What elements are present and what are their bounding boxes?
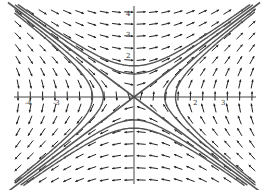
field-arrow	[161, 154, 170, 157]
field-arrow	[65, 104, 68, 113]
field-arrow	[88, 34, 96, 38]
field-arrow	[149, 10, 158, 12]
field-arrow	[16, 128, 20, 136]
field-arrow	[149, 58, 158, 61]
field-arrow	[211, 22, 219, 27]
field-arrow	[137, 106, 145, 109]
field-arrow	[41, 116, 45, 124]
field-arrow	[78, 80, 82, 88]
field-arrow	[63, 22, 71, 26]
field-arrow	[66, 80, 69, 89]
field-arrow	[112, 35, 121, 37]
field-arrow	[249, 44, 254, 51]
field-arrow	[124, 167, 133, 169]
field-arrow	[177, 92, 179, 101]
field-arrow	[211, 10, 219, 14]
field-arrow	[39, 10, 47, 15]
field-arrow	[186, 154, 194, 158]
field-arrow	[186, 166, 194, 170]
field-arrow	[112, 59, 121, 62]
phase-portrait-plot: -4-323432	[0, 0, 269, 190]
x-tick-label: 3	[221, 99, 225, 107]
y-tick-label: 4	[126, 10, 131, 18]
field-arrow	[137, 11, 146, 13]
field-arrow	[124, 23, 133, 25]
field-arrow	[238, 116, 242, 124]
field-arrow	[189, 92, 191, 101]
y-tick-label: 3	[126, 31, 130, 39]
field-arrow	[15, 33, 21, 40]
field-arrow	[149, 178, 158, 180]
field-arrow	[137, 143, 146, 145]
field-arrow	[161, 178, 170, 181]
field-arrow	[189, 104, 192, 113]
field-arrow	[100, 35, 109, 38]
field-arrow	[100, 11, 109, 14]
field-arrow	[27, 33, 34, 39]
field-arrow	[199, 10, 207, 14]
field-arrow	[15, 44, 20, 51]
field-arrow	[53, 68, 57, 76]
field-arrow	[39, 178, 47, 183]
field-arrow	[212, 45, 219, 51]
field-arrow	[237, 128, 242, 136]
field-arrow	[16, 104, 18, 113]
field-arrow	[239, 80, 242, 89]
field-arrow	[149, 34, 158, 36]
field-arrow	[250, 68, 254, 76]
field-arrow	[16, 68, 20, 76]
field-arrow	[161, 10, 170, 13]
field-arrow	[212, 141, 218, 147]
field-arrow	[237, 153, 243, 159]
field-arrow	[78, 104, 81, 112]
field-arrow	[124, 179, 133, 181]
field-arrow	[29, 80, 32, 89]
field-arrow	[162, 142, 170, 146]
field-arrow	[200, 129, 206, 136]
field-arrow	[237, 45, 243, 52]
field-arrow	[251, 80, 254, 89]
field-arrow	[212, 57, 218, 64]
field-arrow	[225, 56, 230, 63]
field-arrow	[186, 10, 194, 14]
field-arrow	[214, 80, 217, 89]
field-arrow	[174, 178, 183, 181]
field-arrow	[174, 154, 182, 158]
field-arrow	[249, 140, 254, 147]
field-arrow	[63, 166, 71, 170]
field-arrow	[201, 80, 204, 89]
field-arrow	[116, 92, 118, 101]
field-arrow	[200, 116, 205, 124]
y-tick-label: 2	[126, 52, 130, 60]
field-arrow	[75, 166, 83, 170]
field-arrow	[88, 11, 97, 14]
field-arrow	[51, 10, 59, 14]
field-arrow	[186, 178, 194, 182]
field-arrow	[224, 141, 230, 148]
field-arrow	[250, 104, 252, 113]
field-arrow	[112, 47, 121, 50]
field-arrow	[112, 179, 121, 181]
field-arrow	[199, 22, 207, 26]
field-arrow	[226, 104, 229, 113]
field-arrow	[112, 143, 121, 146]
field-arrow	[40, 56, 45, 63]
field-arrow	[17, 92, 19, 101]
field-arrow	[237, 56, 242, 64]
field-arrow	[16, 56, 20, 64]
field-arrow	[161, 22, 170, 25]
field-arrow	[88, 154, 96, 158]
field-arrow	[213, 104, 216, 113]
field-arrow	[137, 82, 146, 85]
field-arrow	[149, 22, 158, 24]
field-arrow	[124, 155, 133, 157]
field-arrow	[112, 167, 121, 169]
field-arrow	[65, 68, 70, 75]
field-arrow	[137, 23, 146, 25]
field-arrow	[100, 47, 109, 50]
field-arrow	[189, 80, 193, 88]
field-arrow	[40, 128, 45, 135]
field-arrow	[199, 166, 207, 170]
field-arrow	[236, 33, 242, 39]
field-arrow	[52, 57, 58, 64]
